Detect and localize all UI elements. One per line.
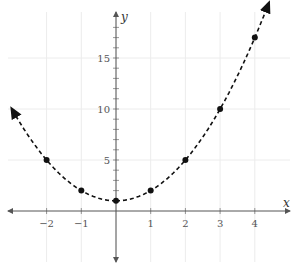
x-axis-label: x: [283, 196, 290, 210]
y-axis-label: y: [120, 10, 128, 24]
y-tick-label: 15: [97, 53, 110, 64]
x-tick-label: 3: [217, 218, 223, 229]
y-tick-label: 10: [97, 104, 110, 115]
data-point: [44, 157, 50, 163]
curve-left-branch: [12, 109, 116, 201]
data-point: [182, 157, 188, 163]
parabola-chart: −2−1123451015 x y: [0, 0, 298, 277]
data-point: [78, 188, 84, 194]
x-tick-label: 2: [182, 218, 188, 229]
x-tick-label: 4: [252, 218, 258, 229]
data-point: [148, 188, 154, 194]
curve-right-branch: [116, 3, 269, 201]
tick-labels: −2−1123451015: [39, 53, 258, 229]
x-tick-label: −1: [74, 218, 89, 229]
parabola-curve: [12, 3, 269, 201]
x-tick-label: −2: [39, 218, 54, 229]
data-point: [217, 106, 223, 112]
x-tick-label: 1: [148, 218, 154, 229]
data-point: [252, 35, 258, 41]
y-tick-label: 5: [104, 155, 110, 166]
data-point: [113, 198, 119, 204]
